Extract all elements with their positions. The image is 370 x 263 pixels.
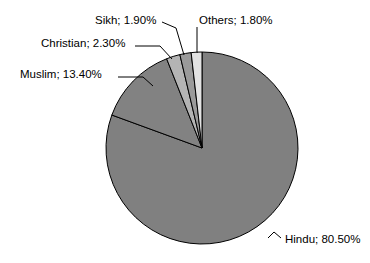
slice-label-sikh: Sikh; 1.90% xyxy=(95,14,156,26)
slice-label-hindu: Hindu; 80.50% xyxy=(285,233,360,245)
pie-chart-canvas: Sikh; 1.90% Christian; 2.30% Muslim; 13.… xyxy=(0,0,370,263)
slice-label-christian: Christian; 2.30% xyxy=(41,37,125,49)
slice-label-muslim: Muslim; 13.40% xyxy=(20,68,102,80)
slice-label-others: Others; 1.80% xyxy=(199,14,273,26)
pie-chart-figure: Sikh; 1.90% Christian; 2.30% Muslim; 13.… xyxy=(0,0,370,263)
pie-slices xyxy=(106,52,298,244)
